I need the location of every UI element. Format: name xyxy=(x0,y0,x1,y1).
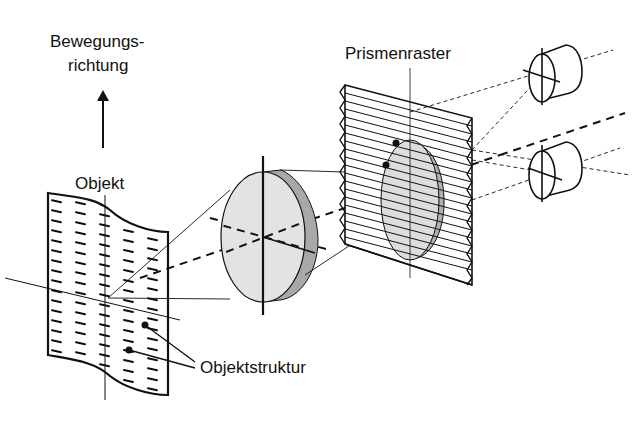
up-arrow-icon xyxy=(97,90,109,148)
prism-label: Prismenraster xyxy=(345,44,451,63)
optical-diagram: Bewegungs- richtung Objekt xyxy=(0,0,641,424)
detector-bottom xyxy=(528,142,582,202)
prism-raster xyxy=(340,68,472,285)
direction-label: Bewegungs- richtung xyxy=(50,32,145,75)
object-label: Objekt xyxy=(75,174,124,193)
lens xyxy=(200,156,355,315)
direction-label-line2: richtung xyxy=(68,56,128,75)
direction-label-line1: Bewegungs- xyxy=(50,32,145,51)
object-sheet xyxy=(48,193,168,410)
detector-top xyxy=(523,45,582,105)
object-structure-label: Objektstruktur xyxy=(200,358,306,377)
